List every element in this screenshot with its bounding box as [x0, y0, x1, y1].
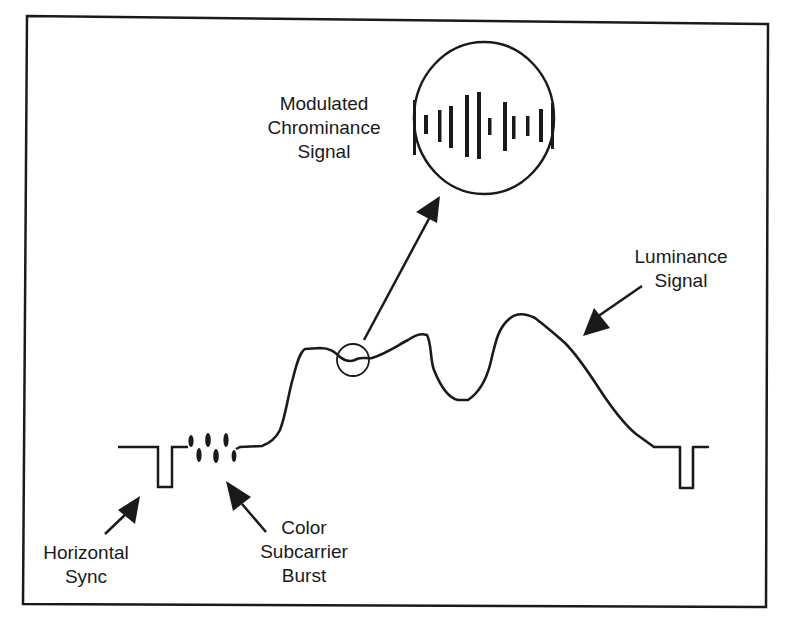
luminance-label-line1: Luminance — [626, 245, 736, 269]
luminance-label: Luminance Signal — [626, 245, 736, 293]
chrominance-label-line1: Modulated — [244, 92, 404, 116]
horizontal-sync-arrow — [105, 496, 140, 534]
chrominance-label: Modulated Chrominance Signal — [244, 92, 404, 164]
horizontal-sync-label-line2: Sync — [36, 565, 136, 589]
magnify-arrow — [364, 196, 440, 340]
chrominance-label-line3: Signal — [244, 140, 404, 164]
color-burst-label: Color Subcarrier Burst — [252, 516, 356, 588]
luminance-waveform — [240, 314, 708, 488]
horizontal-sync-label-line1: Horizontal — [36, 541, 136, 565]
color-burst-label-line3: Burst — [252, 564, 356, 588]
horizontal-sync-label: Horizontal Sync — [36, 541, 136, 589]
chrominance-label-line2: Chrominance — [244, 116, 404, 140]
chrominance-inset — [413, 42, 554, 194]
color-subcarrier-burst — [185, 433, 240, 463]
color-burst-label-line2: Subcarrier — [252, 540, 356, 564]
color-burst-label-line1: Color — [252, 516, 356, 540]
luminance-label-line2: Signal — [626, 269, 736, 293]
luminance-arrow — [583, 286, 642, 336]
horizontal-sync-pulse — [118, 447, 185, 487]
